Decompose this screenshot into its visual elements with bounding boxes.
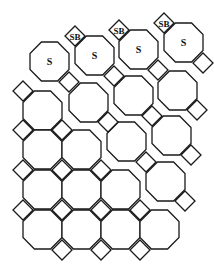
- diamond-label: SB: [158, 19, 169, 29]
- octagon-site: [62, 210, 101, 249]
- octagon-site: [23, 210, 62, 249]
- octagon-site: [69, 83, 108, 122]
- octagon-label: S: [136, 44, 142, 55]
- octagon-site: [114, 76, 153, 115]
- octagon-site: [140, 210, 179, 249]
- octagon-site: [146, 162, 185, 201]
- octagon-site: [158, 71, 197, 110]
- octagon-site: [23, 91, 62, 130]
- octagon-label: S: [181, 37, 187, 48]
- octagon-site: [101, 210, 140, 249]
- octagon-label: S: [92, 50, 98, 61]
- octagon-tiling-diagram: SSSSSBSBSB: [0, 0, 214, 273]
- octagon-site: [23, 170, 62, 209]
- octagon-site: [152, 116, 191, 155]
- diamond-label: SB: [113, 26, 124, 36]
- diamond-label: SB: [69, 32, 80, 42]
- octagon-label: S: [47, 56, 53, 67]
- octagon-site: [101, 170, 140, 209]
- octagon-site: [62, 130, 101, 169]
- octagon-site: [23, 130, 62, 169]
- octagon-site: [62, 170, 101, 209]
